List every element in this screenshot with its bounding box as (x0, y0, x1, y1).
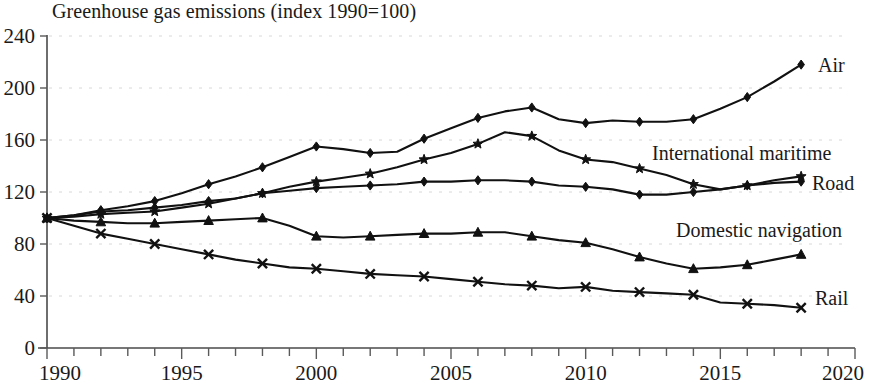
data-point-marker (636, 117, 643, 126)
data-point-marker (419, 154, 429, 163)
data-point-marker (798, 60, 805, 69)
data-series-group (42, 60, 806, 312)
gridlines-group (49, 36, 849, 296)
data-point-marker (421, 134, 428, 143)
series-label-air: Air (818, 54, 845, 76)
y-tick-label: 0 (25, 336, 36, 360)
data-point-marker (690, 187, 697, 196)
x-axis-labels-group: 1990199520002005201020152020 (39, 361, 864, 385)
y-tick-label: 120 (4, 180, 36, 204)
data-point-marker (582, 182, 589, 191)
data-point-marker (690, 115, 697, 124)
x-tick-label: 2020 (822, 361, 864, 385)
data-point-marker (475, 176, 482, 185)
chart-container: Greenhouse gas emissions (index 1990=100… (0, 0, 882, 388)
x-tick-label: 2000 (295, 361, 337, 385)
x-tick-label: 2015 (699, 361, 741, 385)
y-tick-label: 200 (4, 76, 36, 100)
y-tick-label: 80 (14, 232, 35, 256)
y-tick-label: 160 (4, 128, 36, 152)
tick-marks-group (40, 36, 855, 359)
series-label-international-maritime: International maritime (652, 142, 831, 164)
data-point-marker (367, 148, 374, 157)
series-label-road: Road (812, 172, 854, 194)
data-point-marker (636, 190, 643, 199)
x-tick-label: 2010 (565, 361, 607, 385)
data-point-marker (582, 119, 589, 128)
data-point-marker (475, 113, 482, 122)
y-axis-labels-group: 24020016012080400 (4, 24, 36, 360)
data-point-marker (635, 163, 645, 172)
series-label-rail: Rail (815, 287, 849, 309)
y-tick-label: 240 (4, 24, 36, 48)
data-point-marker (205, 180, 212, 189)
data-point-marker (367, 181, 374, 190)
data-point-marker (796, 249, 806, 258)
x-tick-label: 1995 (161, 361, 203, 385)
data-point-marker (528, 103, 535, 112)
data-point-marker (581, 154, 591, 163)
line-chart-plot: 24020016012080400 1990199520002005201020… (0, 0, 882, 388)
data-point-marker (528, 177, 535, 186)
data-point-marker (744, 93, 751, 102)
series-label-domestic-navigation: Domestic navigation (676, 219, 842, 242)
x-tick-label: 1990 (39, 361, 81, 385)
x-tick-label: 2005 (430, 361, 472, 385)
data-point-marker (259, 163, 266, 172)
data-point-marker (365, 169, 375, 178)
y-tick-label: 40 (14, 284, 35, 308)
data-point-marker (421, 177, 428, 186)
data-point-marker (313, 142, 320, 151)
